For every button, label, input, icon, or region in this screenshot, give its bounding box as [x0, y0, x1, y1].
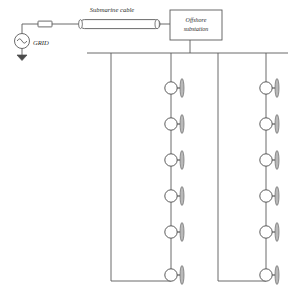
offshore-substation-label-line1: Offshore	[186, 17, 207, 23]
turbine-rotor-blade-icon	[180, 187, 184, 206]
offshore-substation-label-line2: substation	[184, 26, 209, 32]
turbine-nacelle-icon	[165, 154, 177, 166]
turbine-nacelle-icon	[260, 226, 272, 238]
cable-end-cap-left-icon	[79, 20, 83, 29]
turbine-rotor-blade-icon	[275, 79, 279, 98]
turbine-rotor-blade-icon	[275, 223, 279, 242]
turbine-rotor-blade-icon	[180, 266, 184, 285]
offshore-substation-group: Offshore substation	[170, 10, 222, 53]
string-right-group	[218, 53, 279, 285]
single-line-schematic: GRID Submarine cable Offshore substation	[0, 0, 295, 292]
submarine-cable-label: Submarine cable	[90, 6, 135, 13]
wind-turbine-icon	[165, 115, 184, 134]
diagram-root: GRID Submarine cable Offshore substation	[0, 0, 295, 292]
turbine-rotor-blade-icon	[180, 79, 184, 98]
turbine-rotor-blade-icon	[180, 115, 184, 134]
turbine-nacelle-icon	[165, 118, 177, 130]
turbine-rotor-blade-icon	[275, 115, 279, 134]
onshore-lead-group	[22, 21, 80, 27]
wind-turbine-icon	[260, 266, 279, 285]
wind-turbine-icon	[165, 223, 184, 242]
turbine-nacelle-icon	[165, 190, 177, 202]
submarine-cable-group: Submarine cable	[79, 6, 170, 29]
wind-turbine-icon	[260, 79, 279, 98]
turbine-nacelle-icon	[260, 118, 272, 130]
grid-source-group: GRID	[15, 24, 49, 61]
wind-turbine-icon	[165, 79, 184, 98]
turbine-rotor-blade-icon	[180, 223, 184, 242]
turbine-nacelle-icon	[260, 82, 272, 94]
turbine-nacelle-icon	[260, 269, 272, 281]
wind-turbine-icon	[260, 223, 279, 242]
ground-icon	[17, 55, 27, 61]
wind-turbine-icon	[165, 187, 184, 206]
turbine-nacelle-icon	[165, 226, 177, 238]
turbine-nacelle-icon	[260, 190, 272, 202]
grid-label: GRID	[33, 39, 49, 46]
wind-turbine-icon	[165, 151, 184, 170]
turbine-rotor-blade-icon	[275, 187, 279, 206]
turbine-rotor-blade-icon	[275, 151, 279, 170]
submarine-cable-icon	[80, 20, 160, 29]
turbine-nacelle-icon	[165, 269, 177, 281]
turbine-rotor-blade-icon	[275, 266, 279, 285]
turbine-nacelle-icon	[260, 154, 272, 166]
wind-turbine-icon	[260, 151, 279, 170]
wind-turbine-icon	[165, 266, 184, 285]
series-element-icon	[38, 21, 52, 27]
turbine-nacelle-icon	[165, 82, 177, 94]
wind-turbine-icon	[260, 187, 279, 206]
wind-turbine-icon	[260, 115, 279, 134]
string-left-group	[111, 53, 184, 285]
turbine-rotor-blade-icon	[180, 151, 184, 170]
cable-end-cap-right-icon	[155, 20, 159, 29]
